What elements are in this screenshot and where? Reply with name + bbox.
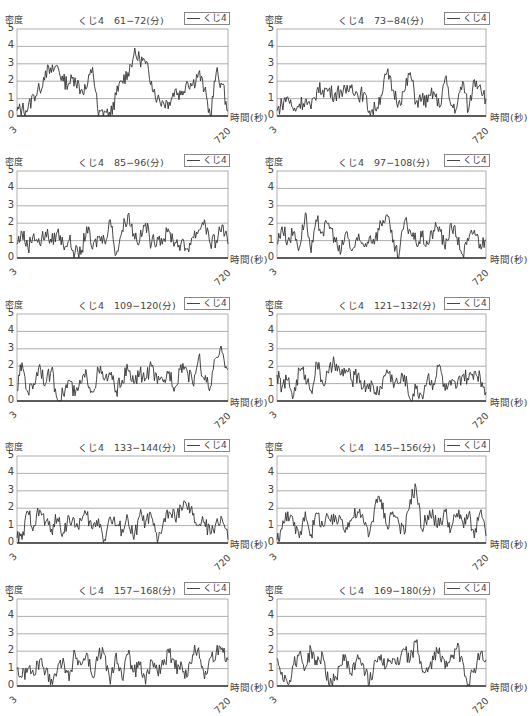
plot-area [260,285,526,428]
y-tick-label: 2 [264,359,274,370]
y-tick-label: 0 [264,109,274,120]
y-tick-label: 2 [4,501,14,512]
y-tick-label: 5 [4,449,14,460]
y-tick-label: 0 [264,536,274,547]
y-tick-label: 4 [4,609,14,620]
x-axis-label: 時間(秒) [490,680,527,694]
y-tick-label: 4 [4,39,14,50]
plot-area [260,0,526,143]
y-tick-label: 0 [4,536,14,547]
plot-area [260,427,526,570]
y-tick-label: 4 [4,324,14,335]
y-tick-label: 3 [264,627,274,638]
y-tick-label: 0 [4,251,14,262]
y-tick-label: 4 [264,466,274,477]
series-line [277,640,486,686]
y-tick-label: 5 [264,449,274,460]
plot-area [0,142,266,285]
y-tick-label: 0 [264,679,274,690]
y-tick-label: 4 [4,466,14,477]
plot-area [0,570,266,713]
y-tick-label: 4 [264,324,274,335]
plot-frame [17,29,228,116]
chart-panel: 密度 くじ4 145−156(分) くじ4 時間(秒) 0123453720 [260,427,526,570]
y-tick-label: 1 [264,519,274,530]
plot-area [260,570,526,713]
plot-area [0,285,266,428]
y-tick-label: 3 [4,199,14,210]
plot-frame [17,171,228,258]
y-tick-label: 2 [264,74,274,85]
y-tick-label: 2 [264,216,274,227]
y-tick-label: 2 [4,644,14,655]
y-tick-label: 0 [4,394,14,405]
y-tick-label: 3 [264,199,274,210]
y-tick-label: 5 [264,164,274,175]
y-tick-label: 5 [264,22,274,33]
chart-panel: 密度 くじ4 97−108(分) くじ4 時間(秒) 0123453720 [260,142,526,285]
y-tick-label: 5 [4,307,14,318]
y-tick-label: 5 [4,164,14,175]
y-tick-label: 3 [4,627,14,638]
chart-panel: 密度 くじ4 85−96(分) くじ4 時間(秒) 0123453720 [0,142,266,285]
series-line [17,501,228,543]
chart-panel: 密度 くじ4 61−72(分) くじ4 時間(秒) 0123453720 [0,0,266,143]
plot-frame [277,599,486,686]
x-axis-label: 時間(秒) [490,395,527,409]
chart-panel: 密度 くじ4 109−120(分) くじ4 時間(秒) 0123453720 [0,285,266,428]
y-tick-label: 2 [4,216,14,227]
y-tick-label: 0 [4,109,14,120]
y-tick-label: 2 [4,74,14,85]
series-line [277,69,486,116]
series-line [277,213,486,258]
chart-panel: 密度 くじ4 121−132(分) くじ4 時間(秒) 0123453720 [260,285,526,428]
x-axis-label: 時間(秒) [490,110,527,124]
y-tick-label: 5 [264,307,274,318]
y-tick-label: 3 [264,57,274,68]
y-tick-label: 3 [4,484,14,495]
y-tick-label: 0 [264,394,274,405]
series-line [277,357,486,401]
y-tick-label: 4 [264,609,274,620]
series-line [17,213,228,258]
series-line [277,484,486,542]
y-tick-label: 5 [264,592,274,603]
series-line [17,48,228,116]
y-tick-label: 1 [264,234,274,245]
y-tick-label: 3 [4,342,14,353]
y-tick-label: 1 [264,92,274,103]
y-tick-label: 2 [4,359,14,370]
plot-area [260,142,526,285]
chart-panel: 密度 くじ4 157−168(分) くじ4 時間(秒) 0123453720 [0,570,266,713]
plot-frame [17,314,228,401]
plot-area [0,427,266,570]
y-tick-label: 1 [264,377,274,388]
y-tick-label: 2 [264,501,274,512]
y-tick-label: 4 [264,181,274,192]
y-tick-label: 4 [264,39,274,50]
y-tick-label: 1 [4,234,14,245]
y-tick-label: 1 [4,662,14,673]
plot-frame [277,171,486,258]
plot-frame [17,599,228,686]
y-tick-label: 1 [4,519,14,530]
series-line [17,346,228,401]
y-tick-label: 3 [264,484,274,495]
y-tick-label: 4 [4,181,14,192]
y-tick-label: 5 [4,22,14,33]
y-tick-label: 0 [4,679,14,690]
chart-panel: 密度 くじ4 73−84(分) くじ4 時間(秒) 0123453720 [260,0,526,143]
y-tick-label: 1 [4,377,14,388]
y-tick-label: 1 [4,92,14,103]
y-tick-label: 2 [264,644,274,655]
y-tick-label: 3 [4,57,14,68]
y-tick-label: 0 [264,251,274,262]
chart-panel: 密度 くじ4 133−144(分) くじ4 時間(秒) 0123453720 [0,427,266,570]
chart-panel: 密度 くじ4 169−180(分) くじ4 時間(秒) 0123453720 [260,570,526,713]
x-axis-label: 時間(秒) [490,252,527,266]
y-tick-label: 5 [4,592,14,603]
y-tick-label: 1 [264,662,274,673]
plot-area [0,0,266,143]
y-tick-label: 3 [264,342,274,353]
x-axis-label: 時間(秒) [490,537,527,551]
